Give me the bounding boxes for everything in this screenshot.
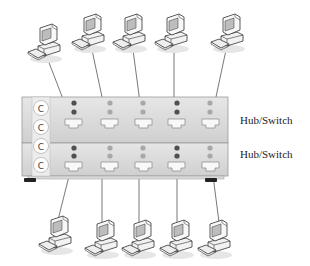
switch-stack: C C C C <box>22 97 228 182</box>
network-diagram: C C C C <box>0 0 310 266</box>
svg-text:C: C <box>38 161 44 171</box>
svg-text:C: C <box>38 123 44 133</box>
svg-text:C: C <box>38 142 44 152</box>
bottom-computers <box>39 216 232 259</box>
switch-bottom-label: Hub/Switch <box>240 148 293 160</box>
switch-top-label: Hub/Switch <box>240 114 293 126</box>
top-computers <box>28 14 245 63</box>
svg-text:C: C <box>38 104 44 114</box>
